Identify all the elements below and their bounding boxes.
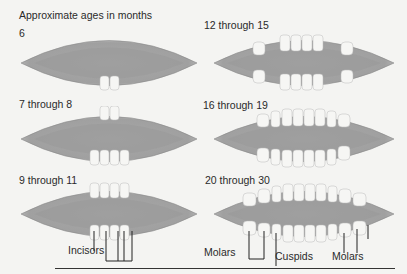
mouth-16-19-months [213, 106, 395, 172]
mouth-6-months [20, 30, 198, 96]
mouth-7-8-months [20, 106, 198, 172]
diagram-title: Approximate ages in months [19, 9, 152, 21]
bottom-rule [55, 268, 395, 269]
incisors-leader-lines [20, 181, 198, 271]
molars-label-right: Molars [332, 250, 364, 262]
incisors-label: Incisors [68, 244, 104, 256]
molars-label-left: Molars [204, 246, 236, 258]
cuspids-label: Cuspids [275, 250, 313, 262]
mouth-12-15-months [213, 30, 395, 96]
